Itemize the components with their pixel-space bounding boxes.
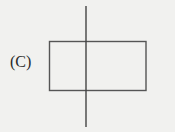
figure-diagram	[0, 0, 175, 132]
rectangle-shape	[50, 42, 147, 91]
